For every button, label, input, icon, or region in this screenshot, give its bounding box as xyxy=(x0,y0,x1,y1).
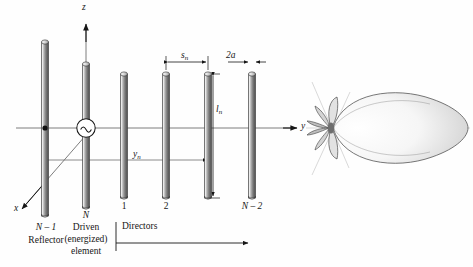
axis-label-x: x xyxy=(14,203,18,214)
diameter-label-2a: 2a xyxy=(226,50,236,61)
figure-canvas: z y x sn 2a ln yn N – 1 Reflector N Driv… xyxy=(0,0,473,267)
length-subscript: n xyxy=(219,108,223,116)
element-index-director-1: 1 xyxy=(114,201,134,212)
ac-source-symbol xyxy=(77,119,95,137)
directors-group-label: Directors xyxy=(122,221,157,232)
offset-dimension-yn xyxy=(47,158,209,163)
element-index-director-last: N – 2 xyxy=(228,201,276,212)
element-name-driven-2: (energized) xyxy=(54,234,118,245)
axis-label-z: z xyxy=(82,2,86,13)
antenna-elements xyxy=(42,40,256,217)
element-index-driven: N xyxy=(74,210,98,221)
element-name-driven-1: Driven xyxy=(58,222,114,233)
spacing-label-sn: sn xyxy=(181,50,188,64)
element-director-last xyxy=(249,72,256,199)
element-index-director-2: 2 xyxy=(156,201,176,212)
spacing-subscript: n xyxy=(185,54,189,62)
radiation-pattern xyxy=(306,82,470,175)
element-director-1 xyxy=(121,72,128,199)
offset-label-yn: yn xyxy=(133,149,141,163)
axis-label-y: y xyxy=(301,121,305,132)
element-director-2 xyxy=(163,72,170,199)
x-axis xyxy=(22,135,86,209)
element-director-3 xyxy=(205,72,212,199)
reflector-origin-dot xyxy=(42,125,47,130)
length-label-ln: ln xyxy=(216,104,222,118)
element-name-driven-3: element xyxy=(58,246,114,257)
offset-subscript: n xyxy=(137,153,141,161)
